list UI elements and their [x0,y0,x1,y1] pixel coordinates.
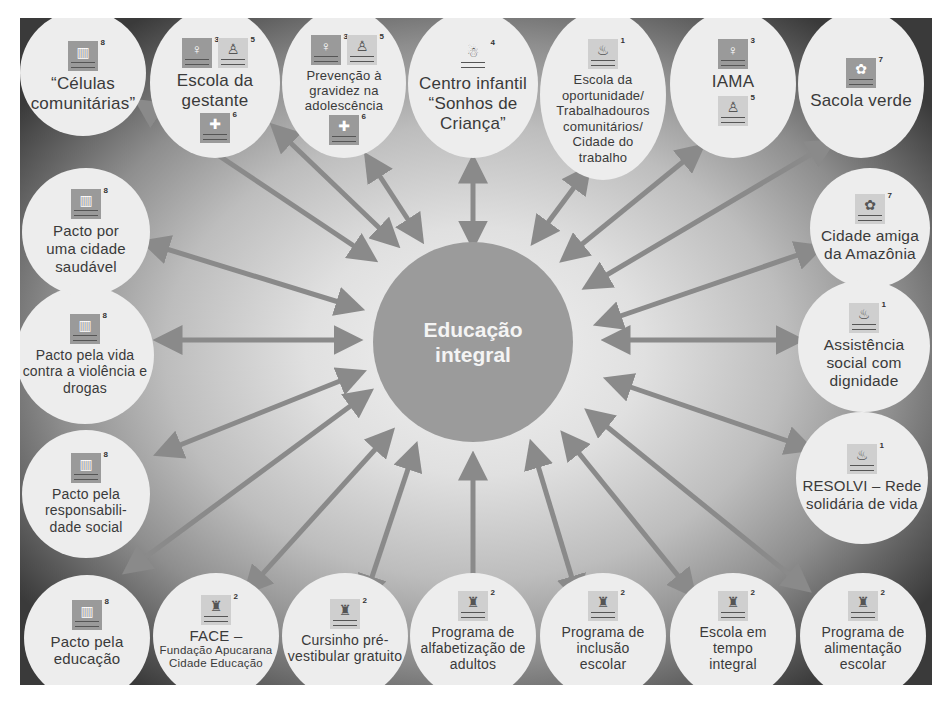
arrow-escola-oportunidade [535,170,587,240]
bowl-hunger-icon: ♨1 [847,444,877,474]
female-health-icon: ♀3 [718,39,748,69]
community-icon: ▥8 [71,189,101,219]
arrow-resolvi [610,380,808,448]
arrow-inclusao [532,446,578,598]
center-label-line2: integral [435,343,511,366]
pregnant-woman-icon: ♙5 [218,38,248,68]
community-icon: ▥8 [72,600,102,630]
arrow-tempo-integral [565,436,692,593]
bottle-education-icon: ♜2 [718,591,748,621]
community-icon: ▥8 [68,41,98,71]
female-health-icon: ♀3 [311,35,341,65]
bottle-education-icon: ♜2 [588,591,618,621]
node-cidade-amazonia: ✿7 Cidade amiga da Amazônia [810,168,930,288]
bottle-education-icon: ♜2 [201,595,231,625]
child-icon: ☃4 [458,41,488,71]
bowl-hunger-icon: ♨1 [588,39,618,69]
flower-environment-icon: ✿7 [855,194,885,224]
medicine-icon: ✚6 [200,113,230,143]
node-assistencia-social: ♨1 Assistência social com dignidade [798,280,930,412]
community-icon: ▥8 [71,453,101,483]
node-pacto-responsabilidade: ▥8 Pacto pela responsabili-dade social [22,430,150,558]
bottle-education-icon: ♜2 [330,599,360,629]
arrow-pacto-responsabilidade [160,373,360,453]
community-icon: ▥8 [70,314,100,344]
diagram-frame: Educaçãointegral ▥8 “Células comunitária… [20,18,932,685]
bowl-hunger-icon: ♨1 [849,303,879,333]
flower-environment-icon: ✿7 [846,58,876,88]
center-label-line1: Educação [423,318,522,341]
node-pacto-vida: ▥8 Pacto pela vida contra a violência e … [20,286,154,424]
bottle-education-icon: ♜2 [848,591,878,621]
node-escola-oportunidade: ♨1 Escola da oportunidade/ Trabalhadouro… [540,18,666,180]
node-pacto-cidade-saudavel: ▥8 Pacto por uma cidade saudável [22,168,150,296]
arrow-face [248,433,390,590]
pregnant-woman-icon: ♙5 [347,35,377,65]
center-node-educacao-integral: Educaçãointegral [373,242,573,442]
arrow-cursinho [365,448,415,598]
arrow-pacto-cidade [147,243,358,308]
medicine-icon: ✚6 [329,115,359,145]
bottle-education-icon: ♜2 [458,591,488,621]
node-resolvi: ♨1 RESOLVI – Rede solidária de vida [796,412,928,544]
female-health-icon: ♀3 [182,38,212,68]
arrow-alimentacao [590,413,806,588]
pregnant-woman-icon: ♙5 [718,96,748,126]
